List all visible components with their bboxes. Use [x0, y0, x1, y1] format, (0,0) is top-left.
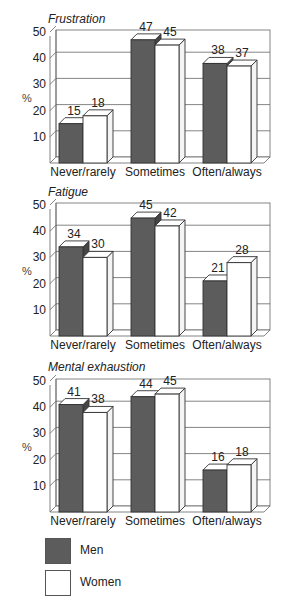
svg-text:41: 41	[67, 385, 81, 399]
chart-mental-exhaustion: Mental exhaustion 1020304050%4138Never/r…	[0, 0, 295, 535]
legend-swatch-men	[45, 538, 71, 564]
bar-chart-mental-exhaustion: 1020304050%4138Never/rarely4445Sometimes…	[0, 0, 295, 535]
legend-item-women: Women	[45, 570, 165, 598]
svg-text:50: 50	[33, 374, 47, 388]
svg-text:%: %	[22, 441, 32, 453]
svg-text:16: 16	[211, 450, 225, 464]
svg-text:10: 10	[33, 479, 47, 493]
svg-text:30: 30	[33, 426, 47, 440]
svg-text:40: 40	[33, 400, 47, 414]
svg-text:44: 44	[139, 377, 153, 391]
svg-text:Often/always: Often/always	[192, 514, 261, 528]
svg-text:Never/rarely: Never/rarely	[50, 514, 115, 528]
bar-women	[227, 459, 257, 512]
legend-swatch-women	[45, 570, 71, 596]
svg-text:18: 18	[235, 445, 249, 459]
legend-item-men: Men	[45, 538, 165, 566]
svg-text:38: 38	[91, 392, 105, 406]
legend-label: Men	[80, 543, 103, 557]
svg-text:Sometimes: Sometimes	[125, 514, 185, 528]
bar-women	[83, 406, 113, 512]
bar-women	[155, 388, 185, 512]
svg-text:45: 45	[163, 374, 177, 388]
svg-text:20: 20	[33, 453, 47, 467]
legend-label: Women	[80, 575, 121, 589]
